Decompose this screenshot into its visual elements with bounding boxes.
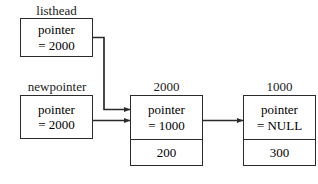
- node-2000-data-cell: 200: [131, 140, 202, 166]
- node-1000-data-cell: 300: [244, 140, 315, 166]
- edge-listhead-to-2000: [93, 38, 130, 110]
- node-1000: pointer = NULL 300: [243, 95, 316, 166]
- linked-list-diagram: listhead pointer = 2000 newpointer point…: [0, 0, 318, 184]
- node-2000-address-label: 2000: [130, 79, 203, 95]
- newpointer-pointer-line1: pointer: [38, 102, 75, 117]
- listhead-pointer-box: pointer = 2000: [20, 18, 93, 57]
- newpointer-pointer-line2: = 2000: [38, 117, 75, 132]
- node-2000-pointer-line2: = 1000: [148, 118, 185, 133]
- newpointer-pointer-box: pointer = 2000: [20, 95, 93, 139]
- node-2000-pointer-line1: pointer: [148, 102, 185, 117]
- listhead-caption: listhead: [20, 3, 93, 19]
- listhead-pointer-line2: = 2000: [38, 38, 75, 53]
- newpointer-caption: newpointer: [14, 79, 100, 95]
- node-2000-pointer-cell: pointer = 1000: [131, 96, 202, 140]
- node-1000-pointer-line1: pointer: [261, 102, 298, 117]
- node-2000: pointer = 1000 200: [130, 95, 203, 166]
- node-1000-pointer-cell: pointer = NULL: [244, 96, 315, 140]
- listhead-pointer-line1: pointer: [38, 22, 75, 37]
- node-1000-pointer-line2: = NULL: [257, 118, 302, 133]
- node-1000-address-label: 1000: [243, 79, 316, 95]
